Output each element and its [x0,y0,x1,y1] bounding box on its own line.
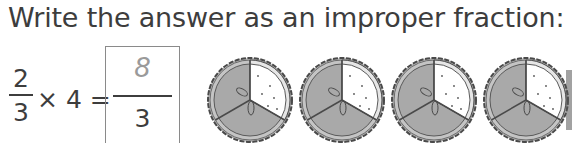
pie-4 [484,58,568,142]
pie-1 [208,58,292,142]
pie-2 [300,58,384,142]
pies-illustration [0,0,572,143]
pie-3 [392,58,476,142]
edge-shadow [566,70,572,130]
